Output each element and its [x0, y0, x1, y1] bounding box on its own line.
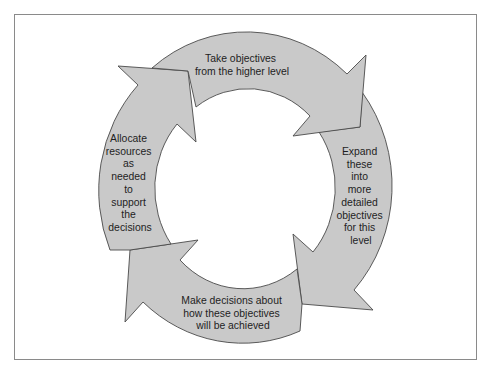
cycle-diagram: Take objectives from the higher level Ex…	[0, 0, 493, 371]
step-label-bottom: Make decisions about how these objective…	[181, 295, 284, 331]
